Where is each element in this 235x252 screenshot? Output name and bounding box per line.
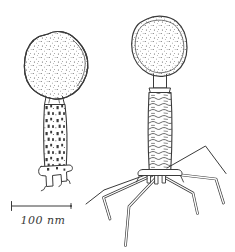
phage-contracted-baseplate bbox=[39, 165, 73, 191]
scale-bar: 100 nm bbox=[12, 202, 72, 228]
baseplate-pin bbox=[155, 176, 158, 185]
phage-extended-tail-sheath bbox=[148, 93, 172, 170]
tail-fiber-left-upper bbox=[86, 173, 151, 204]
figure-canvas: 100 nm bbox=[0, 0, 235, 252]
phage-contracted-head bbox=[24, 32, 87, 100]
bacteriophage-illustration: 100 nm bbox=[0, 0, 235, 252]
phage-extended-collar bbox=[150, 88, 171, 93]
tail-fiber-left-lower bbox=[126, 178, 157, 246]
phage-extended-baseplate bbox=[137, 170, 184, 185]
tail-fiber-right-lower bbox=[165, 178, 198, 214]
phage-extended-head bbox=[132, 16, 187, 76]
phage-contracted-tail bbox=[44, 105, 67, 168]
phage-contracted bbox=[24, 32, 87, 191]
baseplate-pin bbox=[148, 176, 151, 184]
scale-bar-right-dot bbox=[70, 205, 72, 207]
phage-extended bbox=[86, 16, 226, 245]
phage-extended-neck bbox=[150, 75, 171, 93]
baseplate-pin bbox=[163, 176, 166, 184]
tail-fiber-right-mid bbox=[169, 174, 224, 204]
scale-label: 100 nm bbox=[20, 214, 65, 227]
